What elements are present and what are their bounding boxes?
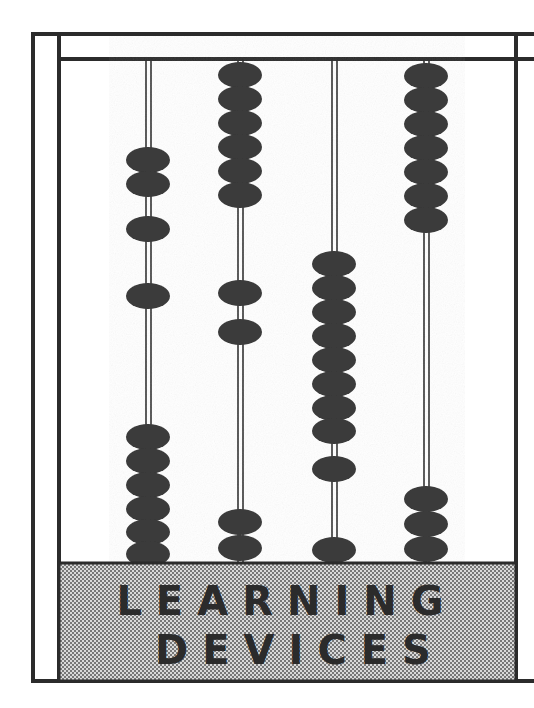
bead bbox=[126, 424, 170, 450]
bead bbox=[404, 536, 448, 562]
bead bbox=[404, 87, 448, 113]
bead bbox=[312, 371, 356, 397]
bead bbox=[404, 135, 448, 161]
abacus-illustration: LEARNING DEVICES bbox=[0, 0, 534, 708]
bead bbox=[404, 63, 448, 89]
bead bbox=[126, 216, 170, 242]
bead bbox=[404, 159, 448, 185]
bead bbox=[218, 110, 262, 136]
bead bbox=[218, 158, 262, 184]
caption-line-learning: LEARNING bbox=[116, 578, 457, 624]
caption-band: LEARNING DEVICES bbox=[59, 563, 516, 681]
bead bbox=[126, 171, 170, 197]
bead bbox=[218, 280, 262, 306]
bead bbox=[312, 251, 356, 277]
bead bbox=[126, 147, 170, 173]
bead bbox=[126, 472, 170, 498]
bead bbox=[218, 535, 262, 561]
bead bbox=[312, 456, 356, 482]
bead bbox=[312, 347, 356, 373]
bead bbox=[404, 111, 448, 137]
bead bbox=[126, 448, 170, 474]
bead bbox=[404, 511, 448, 537]
bead bbox=[218, 509, 262, 535]
bead bbox=[404, 207, 448, 233]
scan-edge-shadow bbox=[0, 0, 12, 708]
bead bbox=[312, 275, 356, 301]
bead bbox=[312, 537, 356, 563]
bead bbox=[404, 486, 448, 512]
bead bbox=[312, 323, 356, 349]
bead bbox=[312, 395, 356, 421]
bead bbox=[218, 319, 262, 345]
bead bbox=[126, 283, 170, 309]
bead bbox=[218, 62, 262, 88]
bead bbox=[312, 418, 356, 444]
caption-line-devices: DEVICES bbox=[155, 627, 445, 673]
bead bbox=[312, 299, 356, 325]
bead bbox=[218, 134, 262, 160]
bead bbox=[218, 86, 262, 112]
bead bbox=[126, 496, 170, 522]
bead bbox=[404, 183, 448, 209]
bead bbox=[218, 182, 262, 208]
illustration-page: LEARNING DEVICES bbox=[0, 0, 534, 708]
